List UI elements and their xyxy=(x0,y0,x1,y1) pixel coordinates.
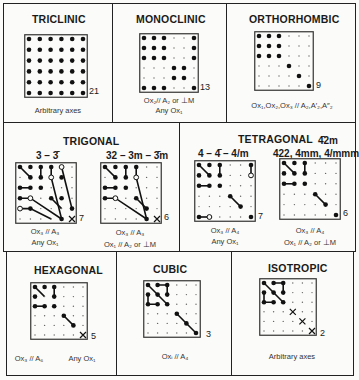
caption-cubic: Oxᵢ // A₄ xyxy=(135,352,215,361)
count-tetragonal-422: 6 xyxy=(343,208,348,218)
title-hexagonal: HEXAGONAL xyxy=(34,264,103,276)
caption-orthorhombic: Ox₁,Ox₂,Ox₃ // A₂,A′₂,A″₂ xyxy=(232,101,352,110)
caption-monoclinic-1: Ox₂// A₂ or ⊥M xyxy=(124,96,214,105)
caption-tetragonal-4-1: Ox₃ // A₄ xyxy=(190,226,260,235)
caption-trigonal-3-2: Any Ox₁ xyxy=(10,238,80,247)
caption-hexagonal-1: Ox₃ // A₆ xyxy=(12,354,46,363)
matrix-grid-trigonal-3 xyxy=(15,162,77,224)
caption-isotropic: Arbitrary axes xyxy=(252,352,332,361)
caption-tetragonal-422-2: Ox₁ // A₂ or ⊥M xyxy=(270,238,350,247)
count-trigonal-32: 6 xyxy=(164,212,169,222)
caption-hexagonal-2: Any Ox₁ xyxy=(60,354,104,363)
caption-triclinic: Arbitrary axes xyxy=(18,106,98,115)
caption-trigonal-32-1: Ox₃ // A₃ xyxy=(90,228,170,237)
title-orthorhombic: ORTHORHOMBIC xyxy=(249,13,339,25)
count-tetragonal-4: 7 xyxy=(258,211,263,221)
title-cubic: CUBIC xyxy=(153,263,187,275)
matrix-grid-orthorhombic xyxy=(254,31,314,91)
title-tetragonal: TETRAGONAL xyxy=(238,133,313,145)
count-cubic: 3 xyxy=(206,329,211,339)
caption-trigonal-3-1: Ox₃ // A₃ xyxy=(10,227,80,236)
count-trigonal-3: 7 xyxy=(79,213,84,223)
matrix-grid-cubic xyxy=(143,280,201,338)
matrix-grid-monoclinic xyxy=(139,33,199,93)
tetragonal-extra-label: 4̄2m xyxy=(318,135,338,146)
matrix-grid-hexagonal xyxy=(30,282,88,340)
matrix-grid-triclinic xyxy=(24,34,88,98)
count-triclinic: 21 xyxy=(89,86,99,96)
title-trigonal: TRIGONAL xyxy=(63,135,119,147)
subtitle-trigonal-32: 32 – 3m – 3̄m xyxy=(106,150,168,161)
caption-tetragonal-4-2: Any Ox₁ xyxy=(190,237,260,246)
count-isotropic: 2 xyxy=(320,328,325,338)
subtitle-trigonal-3: 3 – 3̄ xyxy=(36,150,58,161)
matrix-grid-tetragonal-4 xyxy=(194,160,256,222)
matrix-grid-tetragonal-422 xyxy=(279,158,341,220)
caption-monoclinic-2: Any Ox₁ xyxy=(124,106,214,115)
count-monoclinic: 13 xyxy=(200,82,210,92)
title-monoclinic: MONOCLINIC xyxy=(136,13,206,25)
count-orthorhombic: 9 xyxy=(316,80,321,90)
title-triclinic: TRICLINIC xyxy=(32,13,86,25)
subtitle-tetragonal-4: 4 – 4̄ – 4/m xyxy=(198,148,249,159)
caption-tetragonal-422-1: Ox₃ // A₄ xyxy=(270,226,350,235)
title-isotropic: ISOTROPIC xyxy=(268,262,328,274)
caption-trigonal-32-2: Ox₁ // A₂ or ⊥M xyxy=(90,240,170,249)
matrix-grid-trigonal-32 xyxy=(100,162,162,224)
count-hexagonal: 5 xyxy=(91,331,96,341)
matrix-grid-isotropic xyxy=(259,278,317,336)
